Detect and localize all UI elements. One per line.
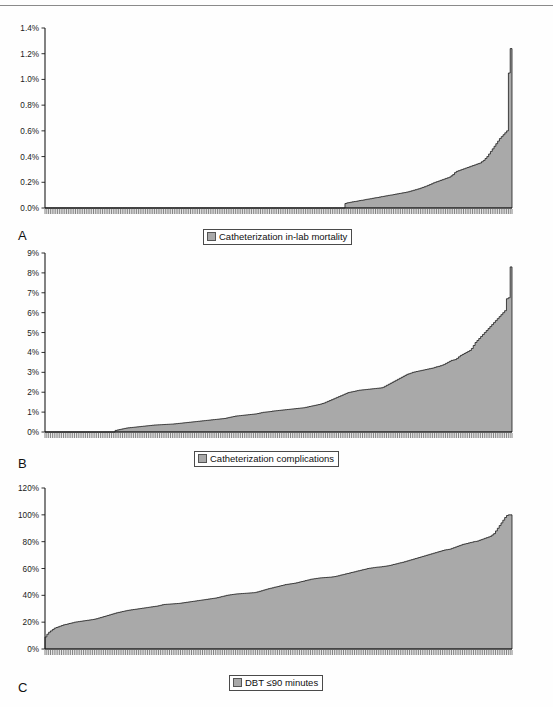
y-axis-tick-label: 1% <box>27 408 39 417</box>
y-axis-tick-label: 1.4% <box>20 24 39 33</box>
panel-b-legend: Catheterization complications <box>194 451 339 467</box>
y-axis-tick-label: 0.4% <box>20 153 39 162</box>
y-axis-tick-label: 7% <box>27 289 39 298</box>
y-axis-tick-label: 40% <box>23 591 39 600</box>
y-axis-tick-label: 60% <box>23 565 39 574</box>
legend-swatch-icon <box>233 678 242 687</box>
panel-c-chart-container: 0%20%40%60%80%100%120% <box>0 482 553 662</box>
series-area <box>45 49 512 208</box>
y-axis-tick-label: 120% <box>18 484 39 493</box>
y-axis-tick-label: 6% <box>27 309 39 318</box>
panel-b: 0%1%2%3%4%5%6%7%8%9% B Catheterization c… <box>0 248 553 478</box>
y-axis-tick-label: 1.0% <box>20 75 39 84</box>
x-axis-tick-marks <box>45 209 512 214</box>
y-axis-tick-label: 4% <box>27 348 39 357</box>
y-axis-tick-label: 0.2% <box>20 178 39 187</box>
legend-swatch-icon <box>207 232 216 241</box>
legend-swatch-icon <box>198 454 207 463</box>
y-axis-tick-label: 8% <box>27 269 39 278</box>
figure-page: 0.0%0.2%0.4%0.6%0.8%1.0%1.2%1.4% A Cathe… <box>0 0 553 707</box>
panel-a-legend-label: Catheterization in-lab mortality <box>219 231 347 242</box>
panel-c: 0%20%40%60%80%100%120% C DBT ≤90 minutes <box>0 482 553 707</box>
y-axis-tick-label: 9% <box>27 249 39 258</box>
panel-c-legend: DBT ≤90 minutes <box>229 675 323 691</box>
y-axis-tick-label: 80% <box>23 538 39 547</box>
panel-c-letter: C <box>18 680 28 695</box>
panel-b-chart-container: 0%1%2%3%4%5%6%7%8%9% <box>0 248 553 440</box>
y-axis-tick-label: 5% <box>27 329 39 338</box>
panel-c-legend-label: DBT ≤90 minutes <box>245 677 318 688</box>
y-axis-tick-label: 20% <box>23 618 39 627</box>
panel-b-chart: 0%1%2%3%4%5%6%7%8%9% <box>0 248 553 440</box>
series-area <box>45 267 512 432</box>
y-axis-tick-label: 0.8% <box>20 101 39 110</box>
panel-a-chart-container: 0.0%0.2%0.4%0.6%0.8%1.0%1.2%1.4% <box>0 10 553 225</box>
panel-a-chart: 0.0%0.2%0.4%0.6%0.8%1.0%1.2%1.4% <box>0 10 553 225</box>
panel-b-letter: B <box>18 456 27 471</box>
y-axis-tick-label: 0.0% <box>20 204 39 213</box>
panel-a-letter: A <box>18 228 27 243</box>
y-axis-tick-label: 0.6% <box>20 127 39 136</box>
y-axis-tick-label: 0% <box>27 645 39 654</box>
y-axis-tick-label: 3% <box>27 368 39 377</box>
panel-b-legend-label: Catheterization complications <box>210 453 334 464</box>
panel-a: 0.0%0.2%0.4%0.6%0.8%1.0%1.2%1.4% A Cathe… <box>0 10 553 245</box>
y-axis-tick-label: 100% <box>18 511 39 520</box>
panel-c-chart: 0%20%40%60%80%100%120% <box>0 482 553 662</box>
top-divider-rule <box>0 5 553 6</box>
y-axis-tick-label: 2% <box>27 388 39 397</box>
y-axis-tick-label: 0% <box>27 428 39 437</box>
x-axis-tick-marks <box>45 433 512 438</box>
y-axis-tick-label: 1.2% <box>20 50 39 59</box>
x-axis-tick-marks <box>45 650 512 655</box>
panel-a-legend: Catheterization in-lab mortality <box>203 229 352 245</box>
series-area <box>45 515 512 649</box>
